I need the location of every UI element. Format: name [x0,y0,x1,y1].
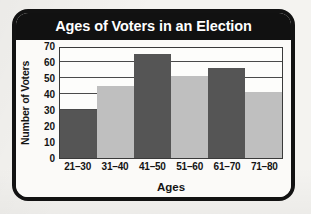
y-axis-tick-40: 40 [44,90,55,100]
chart-title-bar: Ages of Voters in an Election [15,12,292,40]
y-axis-tick-0: 0 [49,154,55,164]
y-axis-tick-60: 60 [44,58,55,68]
bar-31-40 [97,86,134,158]
bar-41-50 [134,54,171,158]
plot-area [59,47,283,159]
y-axis-label-text: Number of Voters [19,61,31,145]
bar-61-70 [208,68,245,158]
y-axis-tick-70: 70 [44,42,55,52]
bar-51-60 [171,76,208,158]
x-axis-tick-51-60: 51–60 [171,161,208,177]
x-axis-tick-21-30: 21–30 [59,161,96,177]
y-axis-tick-20: 20 [44,122,55,132]
page-title: Ages of Voters in an Election [55,18,252,34]
x-axis-tick-labels: 21–3031–4041–5051–6061–7071–80 [59,161,283,177]
y-axis-tick-50: 50 [44,74,55,84]
chart-body: Number of Voters 706050403020100 21–3031… [16,41,291,197]
bar-21-30 [60,110,97,158]
bar-71-80 [245,92,282,158]
y-axis-tick-10: 10 [44,138,55,148]
y-axis-label: Number of Voters [17,47,33,159]
x-axis-tick-31-40: 31–40 [96,161,133,177]
screenshot-root: Ages of Voters in an Election Number of … [0,0,311,214]
x-axis-tick-41-50: 41–50 [134,161,171,177]
x-axis-label: Ages [59,181,283,193]
y-axis-tick-30: 30 [44,106,55,116]
x-axis-tick-71-80: 71–80 [246,161,283,177]
y-axis-tick-labels: 706050403020100 [33,47,57,159]
x-axis-tick-61-70: 61–70 [208,161,245,177]
chart-frame: Ages of Voters in an Election Number of … [12,9,295,201]
bar-series [60,48,282,158]
